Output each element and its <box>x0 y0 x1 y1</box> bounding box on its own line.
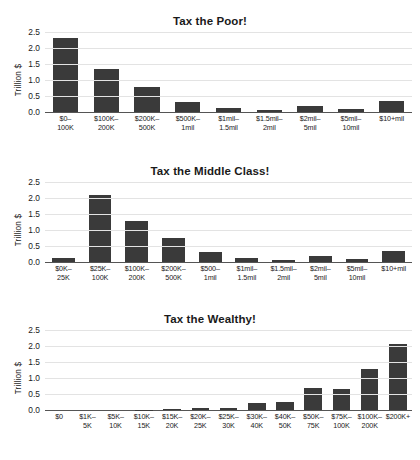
y-axis-tick-label: 2.0 <box>28 341 40 351</box>
gridline <box>45 362 412 363</box>
bar-slot <box>155 182 192 262</box>
gridline <box>45 80 412 81</box>
bar <box>94 69 119 112</box>
poster-root: Tax the Poor! Trillion $ 0.00.51.01.52.0… <box>0 0 420 460</box>
bar-slot <box>86 32 127 112</box>
x-axis-tick-label: $1mil–1.5mil <box>229 264 266 282</box>
x-axis-labels: $0–100K$100K–200K$200K–500K$500K–1mil$1m… <box>45 114 412 132</box>
x-axis-tick-label: $2mil–5mil <box>302 264 339 282</box>
y-axis-tick-label: 2.0 <box>28 193 40 203</box>
x-axis-tick-label: $10+mil <box>375 264 412 282</box>
y-axis-tick-label: 0.0 <box>28 107 40 117</box>
bar <box>163 409 181 410</box>
x-axis-tick-label: $75K–100K <box>327 412 355 430</box>
x-axis-tick-label: $100K–200K <box>118 264 155 282</box>
bar-slot <box>192 182 229 262</box>
bar-slot <box>214 330 242 410</box>
bar-slot <box>82 182 119 262</box>
gridline <box>45 246 412 247</box>
bar <box>216 108 241 112</box>
bar-slot <box>339 182 376 262</box>
y-axis-tick-label: 0.5 <box>28 389 40 399</box>
bar <box>379 101 404 112</box>
x-axis-tick-label: $40K–50K <box>271 412 299 430</box>
plot-area <box>45 32 412 113</box>
bar-slot <box>45 32 86 112</box>
x-axis-tick-label: $1K–5K <box>73 412 101 430</box>
x-axis-tick-label: $20K–25K <box>186 412 214 430</box>
bar <box>235 258 258 262</box>
x-axis-tick-label: $200K–500K <box>155 264 192 282</box>
bar-slot <box>45 182 82 262</box>
y-axis-tick-label: 0.5 <box>28 91 40 101</box>
gridline <box>45 32 412 33</box>
x-axis-tick-label: $2mil–5mil <box>290 114 331 132</box>
bar <box>333 389 351 410</box>
gridline <box>45 394 412 395</box>
x-axis-tick-label: $200K+ <box>384 412 412 430</box>
gridline <box>45 330 412 331</box>
gridline <box>45 346 412 347</box>
y-axis-tick-label: 1.5 <box>28 59 40 69</box>
x-axis-tick-label: $5K–10K <box>101 412 129 430</box>
plot-wrapper: Trillion $ 0.00.51.01.52.02.5 $0K–25K$25… <box>0 182 420 278</box>
bar <box>276 402 294 410</box>
bar <box>192 408 210 410</box>
bar-slot <box>167 32 208 112</box>
x-axis-tick-label: $1mil–1.5mil <box>208 114 249 132</box>
bar <box>257 110 282 112</box>
bar <box>52 258 75 262</box>
gridline <box>45 378 412 379</box>
plot-wrapper: Trillion $ 0.00.51.01.52.02.5 $0 $1K–5K$… <box>0 330 420 426</box>
bar-series <box>45 32 412 112</box>
bar <box>304 388 322 410</box>
bar <box>382 251 405 262</box>
bar-slot <box>356 330 384 410</box>
bar-slot <box>158 330 186 410</box>
bar-slot <box>73 330 101 410</box>
x-axis-tick-label: $1.5mil–2mil <box>249 114 290 132</box>
x-axis-tick-label: $1.5mil–2mil <box>265 264 302 282</box>
x-axis-tick-label: $0–100K <box>45 114 86 132</box>
y-axis-tick-label: 0.0 <box>28 405 40 415</box>
gridline <box>45 64 412 65</box>
y-axis-tick-label: 1.5 <box>28 209 40 219</box>
bar-slot <box>208 32 249 112</box>
x-axis-tick-label: $100K–200K <box>356 412 384 430</box>
chart-panel-tax-the-middle-class: Tax the Middle Class! Trillion $ 0.00.51… <box>0 164 420 278</box>
bar-slot <box>302 182 339 262</box>
x-axis-tick-label: $10+mil <box>371 114 412 132</box>
chart-title: Tax the Wealthy! <box>0 312 420 326</box>
bar-slot <box>249 32 290 112</box>
y-axis-ticks: 0.00.51.01.52.02.5 <box>16 330 42 410</box>
gridline <box>45 182 412 183</box>
bar-slot <box>130 330 158 410</box>
bar <box>346 259 369 262</box>
bar-slot <box>186 330 214 410</box>
bar-slot <box>229 182 266 262</box>
x-axis-tick-label: $50K–75K <box>299 412 327 430</box>
bar-slot <box>330 32 371 112</box>
gridline <box>45 96 412 97</box>
x-axis-tick-label: $25K–30K <box>214 412 242 430</box>
x-axis-tick-label: $25K–100K <box>82 264 119 282</box>
x-axis-tick-label: $200K–500K <box>127 114 168 132</box>
y-axis-tick-label: 1.5 <box>28 357 40 367</box>
y-axis-ticks: 0.00.51.01.52.02.5 <box>16 182 42 262</box>
x-axis-tick-label: $0K–25K <box>45 264 82 282</box>
x-axis-tick-label: $500–1mil <box>192 264 229 282</box>
bar <box>361 369 379 410</box>
x-axis-tick-label: $30K–40K <box>243 412 271 430</box>
bar <box>248 403 266 410</box>
bar-slot <box>299 330 327 410</box>
plot-area <box>45 330 412 411</box>
y-axis-tick-label: 2.0 <box>28 43 40 53</box>
x-axis-tick-label: $0 <box>45 412 73 430</box>
bar-slot <box>243 330 271 410</box>
bar-slot <box>371 32 412 112</box>
bar <box>125 221 148 262</box>
chart-title: Tax the Poor! <box>0 14 420 28</box>
bar <box>89 195 112 262</box>
bar <box>338 109 363 112</box>
y-axis-tick-label: 1.0 <box>28 75 40 85</box>
